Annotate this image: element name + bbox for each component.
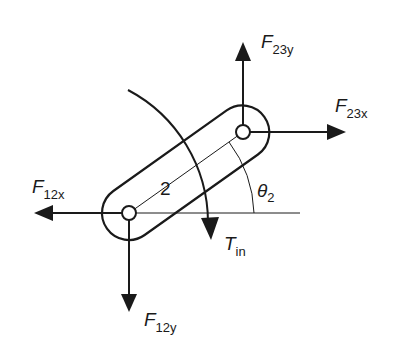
f12x-arrowhead-icon [34, 205, 53, 221]
pin-joint-upper [236, 125, 250, 139]
f23x-label: F23x [335, 95, 368, 121]
torque-arrowhead-icon [201, 217, 219, 240]
pin-joint-lower [122, 206, 136, 220]
link-number-label: 2 [160, 178, 171, 199]
f23x-arrowhead-icon [327, 124, 346, 140]
theta-label: θ2 [257, 180, 275, 205]
torque-label: Tin [224, 233, 246, 259]
f12y-arrowhead-icon [121, 294, 137, 312]
f12x-label: F12x [32, 176, 65, 202]
f23y-arrowhead-icon [235, 42, 251, 61]
f12y-label: F12y [144, 309, 177, 335]
theta-angle-arc [229, 142, 254, 213]
free-body-diagram: 2 θ2 Tin F23y F23x F12x F12y [0, 0, 394, 347]
f23y-label: F23y [261, 31, 294, 57]
torque-arc [128, 90, 208, 222]
